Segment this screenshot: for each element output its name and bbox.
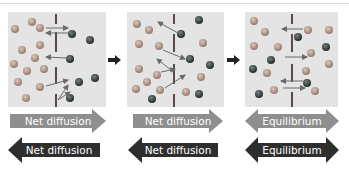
net-diffusion-left-arrow-1: Net diffusion <box>8 137 100 163</box>
panel-2-particles <box>127 12 224 107</box>
net-diffusion-right-arrow-2: Net diffusion <box>133 109 223 133</box>
flow-arrow-2 <box>227 55 241 65</box>
net-diffusion-left-arrow-2: Net diffusion <box>128 137 218 163</box>
label-text: Net diffusion <box>128 137 218 163</box>
equilibrium-double-arrow-1: Equilibrium <box>245 109 339 133</box>
equilibrium-double-arrow-2: Equilibrium <box>245 137 339 163</box>
flow-arrow-1 <box>108 55 122 65</box>
label-text: Net diffusion <box>8 137 100 163</box>
label-text: Equilibrium <box>245 109 339 133</box>
top-rule <box>0 3 349 4</box>
panel-1 <box>8 12 106 107</box>
panel-3 <box>245 12 338 107</box>
panel-1-particles <box>8 12 106 107</box>
label-text: Net diffusion <box>133 109 223 133</box>
net-diffusion-right-arrow-1: Net diffusion <box>10 109 106 133</box>
label-text: Equilibrium <box>245 137 339 163</box>
label-text: Net diffusion <box>10 109 106 133</box>
panel-2 <box>127 12 224 107</box>
panel-3-particles <box>245 12 338 107</box>
